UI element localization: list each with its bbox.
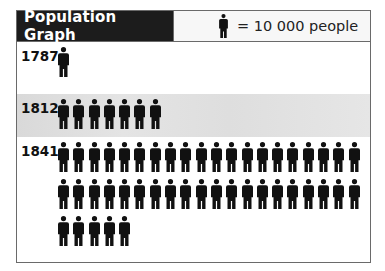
person-icon xyxy=(303,142,314,172)
person-icon xyxy=(318,179,329,209)
person-icon xyxy=(134,179,145,209)
year-label: 1812 xyxy=(21,100,59,116)
person-icon xyxy=(104,179,115,209)
person-icon xyxy=(196,179,207,209)
person-icon xyxy=(349,179,360,209)
figures xyxy=(58,142,368,246)
person-icon xyxy=(272,142,283,172)
person-icon xyxy=(226,179,237,209)
person-icon xyxy=(104,142,115,172)
population-pictograph: Population Graph = 10 000 people 1787 18… xyxy=(16,10,371,263)
person-icon xyxy=(272,179,283,209)
person-icon xyxy=(89,179,100,209)
person-icon xyxy=(211,179,222,209)
person-icon xyxy=(134,142,145,172)
row-1841: 1841 xyxy=(17,137,370,263)
person-icon xyxy=(73,142,84,172)
person-icon xyxy=(104,99,115,129)
row-1787: 1787 xyxy=(17,42,370,94)
person-icon xyxy=(303,179,314,209)
person-icon xyxy=(73,99,84,129)
legend: = 10 000 people xyxy=(173,11,370,41)
person-icon xyxy=(257,179,268,209)
person-icon xyxy=(211,142,222,172)
person-icon xyxy=(119,179,130,209)
person-icon xyxy=(287,179,298,209)
person-icon xyxy=(150,179,161,209)
person-icon xyxy=(73,179,84,209)
person-icon xyxy=(318,142,329,172)
person-icon xyxy=(165,142,176,172)
graph-title: Population Graph xyxy=(17,11,173,41)
person-icon xyxy=(180,142,191,172)
person-icon xyxy=(73,216,84,246)
person-icon xyxy=(150,142,161,172)
person-icon xyxy=(134,99,145,129)
person-icon xyxy=(58,47,69,77)
graph-header: Population Graph = 10 000 people xyxy=(17,11,370,42)
person-icon xyxy=(89,216,100,246)
year-label: 1841 xyxy=(21,143,59,159)
person-icon xyxy=(349,142,360,172)
person-icon xyxy=(257,142,268,172)
person-icon xyxy=(180,179,191,209)
figures xyxy=(58,47,368,77)
figures xyxy=(58,99,368,129)
person-icon xyxy=(89,99,100,129)
person-icon xyxy=(119,216,130,246)
person-icon xyxy=(242,179,253,209)
person-icon xyxy=(218,14,229,38)
person-icon xyxy=(242,142,253,172)
person-icon xyxy=(196,142,207,172)
row-1812: 1812 xyxy=(17,94,370,137)
person-icon xyxy=(150,99,161,129)
person-icon xyxy=(287,142,298,172)
legend-label: = 10 000 people xyxy=(237,18,358,34)
person-icon xyxy=(58,216,69,246)
person-icon xyxy=(58,179,69,209)
person-icon xyxy=(226,142,237,172)
year-label: 1787 xyxy=(21,48,59,64)
person-icon xyxy=(165,179,176,209)
person-icon xyxy=(58,142,69,172)
person-icon xyxy=(89,142,100,172)
person-icon xyxy=(119,99,130,129)
person-icon xyxy=(333,179,344,209)
person-icon xyxy=(104,216,115,246)
person-icon xyxy=(333,142,344,172)
person-icon xyxy=(119,142,130,172)
person-icon xyxy=(58,99,69,129)
